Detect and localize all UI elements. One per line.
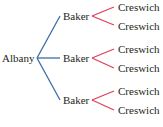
node-creswich-6: Creswich [118, 104, 160, 116]
node-creswich-2: Creswich [118, 20, 160, 32]
node-albany: Albany [2, 52, 34, 64]
node-baker-3: Baker [63, 94, 89, 106]
node-creswich-5: Creswich [118, 85, 160, 97]
edge-albany-baker-3 [37, 58, 60, 100]
node-baker-2: Baker [63, 52, 89, 64]
node-creswich-1: Creswich [118, 1, 160, 13]
node-creswich-3: Creswich [118, 43, 160, 55]
root-edges [37, 16, 60, 100]
edge-albany-baker-1 [37, 16, 60, 58]
node-creswich-4: Creswich [118, 62, 160, 74]
branch-edges [92, 7, 114, 110]
node-baker-1: Baker [63, 10, 89, 22]
